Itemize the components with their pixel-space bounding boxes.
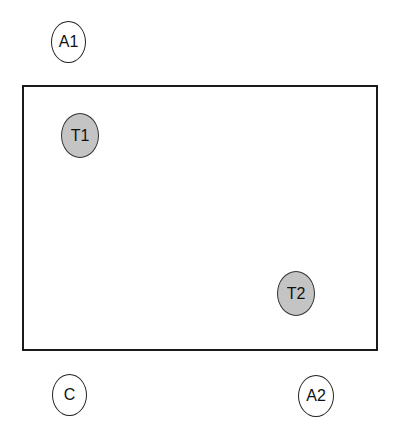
node-c: C [52, 374, 87, 416]
node-a2-label: A2 [306, 387, 326, 405]
node-a1: A1 [51, 21, 86, 63]
node-a2: A2 [298, 375, 334, 417]
node-a1-label: A1 [59, 33, 79, 51]
node-t1-label: T1 [71, 127, 90, 145]
node-t2-label: T2 [287, 285, 306, 303]
node-t1: T1 [61, 113, 99, 158]
node-c-label: C [64, 386, 76, 404]
node-t2: T2 [277, 271, 315, 316]
